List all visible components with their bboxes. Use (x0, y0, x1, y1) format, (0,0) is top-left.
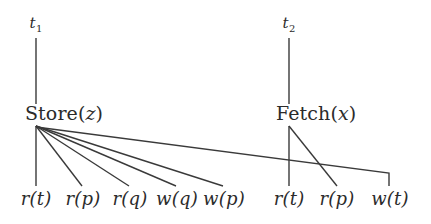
leaf-paren-close: ) (347, 188, 354, 209)
operation-name-store: Store (25, 102, 78, 124)
operation-paren-close: ) (349, 102, 357, 124)
transaction-label-t1: t1 (30, 16, 43, 34)
leaf-paren-close: ) (93, 188, 100, 209)
transaction-label-t2: t2 (283, 16, 296, 34)
operation-name-fetch: Fetch (276, 102, 330, 124)
operation-label-fetch: Fetch(x) (276, 104, 356, 123)
leaf-paren-open: ( (387, 188, 394, 209)
leaf-op-leaf-4: w (156, 188, 172, 209)
leaf-paren-close: ) (402, 188, 409, 209)
leaf-arg-leaf-4: q (179, 188, 191, 209)
edge-store-to-leaf-4 (36, 126, 176, 186)
leaf-paren-open: ( (74, 188, 81, 209)
leaf-op-leaf-2: r (65, 188, 74, 209)
leaf-op-leaf-5: w (203, 188, 219, 209)
operation-paren-close: ) (96, 102, 104, 124)
leaf-paren-open: ( (282, 188, 289, 209)
leaf-paren-open: ( (172, 188, 179, 209)
figure-canvas: t1 t2 Store(z) Fetch(x) r(t)r(p)r(q)w(q)… (0, 0, 431, 224)
leaf-arg-leaf-7: p (336, 188, 348, 209)
leaf-label-leaf-2: r(p) (65, 190, 100, 208)
leaf-label-leaf-6: r(t) (274, 190, 305, 208)
leaf-op-leaf-3: r (112, 188, 121, 209)
leaf-paren-close: ) (44, 188, 51, 209)
leaf-label-leaf-8: w(t) (371, 190, 409, 208)
leaf-paren-open: ( (328, 188, 335, 209)
leaf-paren-close: ) (191, 188, 198, 209)
leaf-paren-close: ) (238, 188, 245, 209)
leaf-label-leaf-4: w(q) (156, 190, 198, 208)
leaf-op-leaf-8: w (371, 188, 387, 209)
leaf-op-leaf-7: r (319, 188, 328, 209)
leaf-label-leaf-7: r(p) (319, 190, 354, 208)
leaf-paren-open: ( (29, 188, 36, 209)
leaf-arg-leaf-2: p (82, 188, 94, 209)
leaf-paren-open: ( (219, 188, 226, 209)
operation-arg-store: z (85, 102, 95, 124)
operation-paren-open: ( (330, 102, 338, 124)
leaf-label-leaf-1: r(t) (21, 190, 52, 208)
leaf-label-leaf-3: r(q) (112, 190, 147, 208)
leaf-arg-leaf-3: q (129, 188, 141, 209)
edge-store-to-leaf-2 (36, 126, 82, 186)
transaction-label-t2-subscript: 2 (289, 23, 296, 34)
leaf-paren-close: ) (140, 188, 147, 209)
operation-label-store: Store(z) (25, 104, 103, 123)
leaf-paren-close: ) (297, 188, 304, 209)
leaf-arg-leaf-5: p (226, 188, 238, 209)
transaction-label-t1-subscript: 1 (36, 23, 43, 34)
leaf-paren-open: ( (121, 188, 128, 209)
leaf-label-leaf-5: w(p) (203, 190, 245, 208)
leaf-op-leaf-6: r (274, 188, 283, 209)
leaf-op-leaf-1: r (21, 188, 30, 209)
operation-arg-fetch: x (338, 102, 349, 124)
edge-store-to-leaf-3 (36, 126, 129, 186)
edge-fetch-to-leaf-7 (289, 126, 337, 186)
edge-store-to-leaf-5 (36, 126, 223, 186)
edge-store-to-leaf-8 (36, 127, 389, 186)
